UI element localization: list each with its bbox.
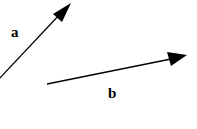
vector-diagram: a b: [0, 0, 197, 129]
vector-b-label: b: [108, 85, 116, 101]
vector-a: [0, 3, 71, 80]
vector-b: [47, 52, 187, 84]
arrowhead-b-icon: [167, 52, 187, 66]
vector-a-label: a: [11, 24, 19, 40]
